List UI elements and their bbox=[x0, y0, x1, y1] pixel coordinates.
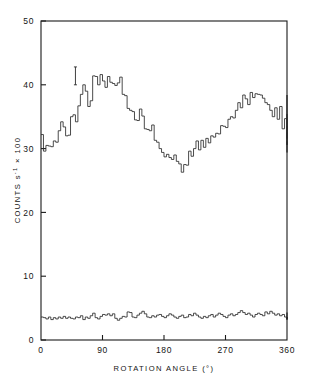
y-axis-tick-labels: 01020304050 bbox=[23, 16, 34, 345]
signal-trace bbox=[41, 75, 287, 173]
x-tick-label-180: 180 bbox=[156, 345, 172, 355]
y-tick-label-10: 10 bbox=[23, 271, 34, 281]
data-traces bbox=[41, 67, 287, 320]
y-axis-ticks bbox=[41, 21, 46, 340]
y-tick-label-0: 0 bbox=[29, 335, 34, 345]
y-tick-label-40: 40 bbox=[23, 80, 34, 90]
x-tick-label-360: 360 bbox=[279, 345, 295, 355]
x-axis-ticks bbox=[103, 335, 226, 340]
x-tick-label-90: 90 bbox=[97, 345, 108, 355]
rotation-angle-count-chart: 01020304050 090180270360 ROTATION ANGLE … bbox=[0, 0, 309, 381]
error-bar bbox=[74, 67, 77, 85]
y-axis-title-text: COUNTS s-1 × 100 bbox=[12, 137, 22, 224]
y-axis-title: COUNTS s-1 × 100 bbox=[12, 137, 22, 224]
x-axis-title: ROTATION ANGLE (°) bbox=[114, 364, 215, 373]
figure-container: 01020304050 090180270360 ROTATION ANGLE … bbox=[0, 0, 309, 381]
x-tick-label-270: 270 bbox=[218, 345, 234, 355]
y-axis-title-tail: × 100 bbox=[13, 137, 22, 167]
y-axis-title-exponent: -1 bbox=[12, 166, 18, 174]
y-axis-title-main: COUNTS s bbox=[13, 174, 22, 223]
x-tick-label-0: 0 bbox=[38, 345, 43, 355]
plot-frame bbox=[41, 21, 287, 340]
y-tick-label-30: 30 bbox=[23, 144, 34, 154]
x-axis-tick-labels: 090180270360 bbox=[38, 345, 295, 355]
background-trace bbox=[41, 311, 287, 321]
y-tick-label-20: 20 bbox=[23, 208, 34, 218]
y-tick-label-50: 50 bbox=[23, 16, 34, 26]
